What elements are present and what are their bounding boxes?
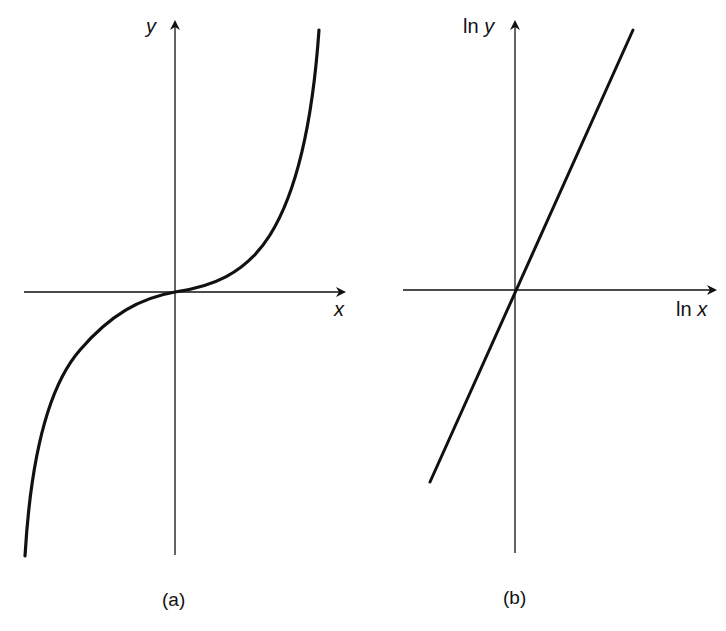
panel-b-caption: (b) bbox=[503, 587, 526, 609]
panel-a-power-curve bbox=[25, 30, 319, 556]
panel-a-caption: (a) bbox=[162, 589, 185, 611]
panel-b bbox=[403, 22, 715, 553]
panel-b-y-label-var: y bbox=[484, 15, 494, 37]
panel-b-y-label: ln y bbox=[463, 15, 494, 38]
panel-b-y-label-prefix: ln bbox=[463, 15, 479, 37]
panel-b-x-label-var: x bbox=[697, 298, 707, 320]
panel-a bbox=[24, 22, 344, 556]
panel-b-loglog-line bbox=[430, 30, 633, 482]
panel-b-x-label: ln x bbox=[676, 298, 707, 321]
figure-canvas bbox=[0, 0, 726, 631]
panel-a-x-label: x bbox=[334, 298, 344, 321]
panel-a-y-label: y bbox=[146, 15, 156, 38]
panel-b-x-label-prefix: ln bbox=[676, 298, 692, 320]
